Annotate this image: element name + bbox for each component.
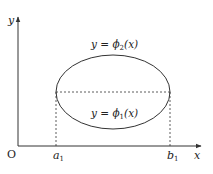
x-axis-label: x <box>194 149 201 162</box>
y-axis-label: y <box>7 14 15 27</box>
tick-label-b1: b1 <box>167 149 179 163</box>
origin-label: O <box>7 148 16 161</box>
region-diagram: y x O a1 b1 y = ϕ2(x) y = ϕ1(x) <box>0 0 213 174</box>
upper-curve-label: y = ϕ2(x) <box>90 38 138 52</box>
lower-curve-label: y = ϕ1(x) <box>90 107 138 121</box>
tick-label-a1: a1 <box>53 149 64 163</box>
